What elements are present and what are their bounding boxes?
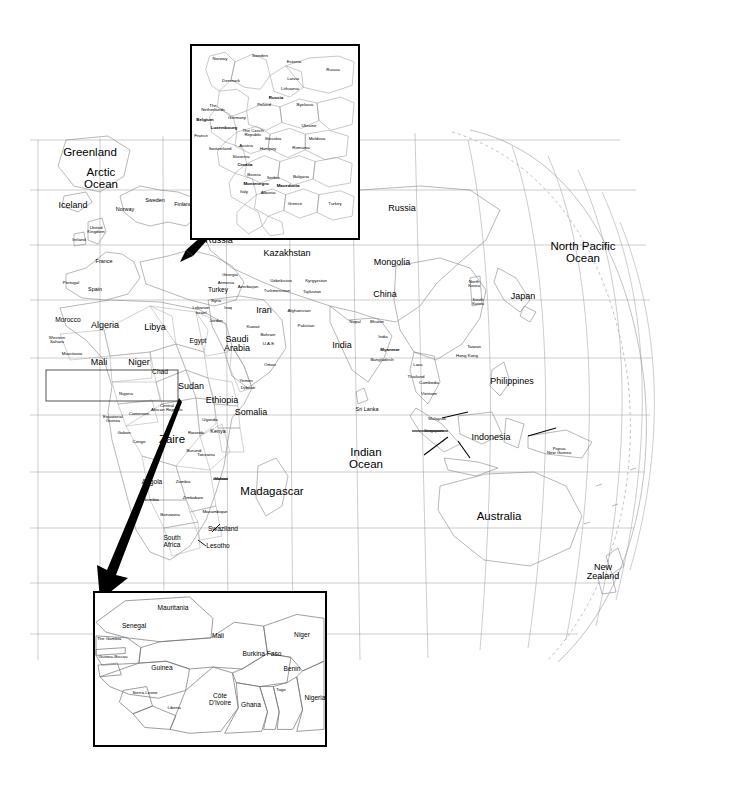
europe-label-austria: Austria [239,144,253,148]
europe-label-macedonia: Macedonia [277,184,300,188]
europe-label-norway: Norway [213,57,228,61]
europe-label-russia: Russia [269,96,283,100]
europe-label-albania: Albania [261,191,276,195]
west-africa-inset-labels: MauritaniaSenegalThe GambiaGuinea-Bissau… [95,593,325,745]
west-africa-inset-box[interactable]: MauritaniaSenegalThe GambiaGuinea-Bissau… [93,591,327,747]
westafrica-label-guinea-bissau: Guinea-Bissau [99,655,128,659]
westafrica-label-sierra-leone: Sierra Leone [132,691,157,695]
europe-label-italy: Italy [240,190,248,194]
europe-inset-labels: NorwaySwedenEstoniaRussiaDenmarkLatviaLi… [192,46,358,238]
europe-label-poland: Poland [257,103,271,107]
europe-label-slovakia: Slovakia [265,137,282,141]
europe-label-denmark: Denmark [222,79,240,83]
europe-label-bosnia: Bosnia [247,173,260,177]
westafrica-label-burkina-faso: Burkina Faso [243,651,282,658]
europe-label-latvia: Latvia [287,77,299,81]
westafrica-label-liberia: Liberia [167,706,180,710]
europe-label-bulgaria: Bulgaria [293,175,309,179]
europe-label-ukraine: Ukraine [301,124,316,128]
europe-label-serbia: Serbia [267,176,280,180]
europe-label-switzerland: Switzerland [209,147,232,151]
europe-label-greece: Greece [288,202,302,206]
westafrica-label-senegal: Senegal [122,623,146,630]
europe-label-russia: Russia [326,68,339,72]
westafrica-label-niger: Niger [294,632,310,639]
europe-label-hungary: Hungary [260,147,277,151]
westafrica-label-guinea: Guinea [151,665,172,672]
europe-label-montenegro: Montenegro [243,182,268,186]
westafrica-label-mali: Mali [212,633,224,640]
europe-label-the-netherlands: The Netherlands [201,104,225,113]
europe-label-the-czech-republic: The Czech Republic [242,129,263,138]
europe-label-luxembourg: Luxembourg [211,126,238,130]
globe-limb [452,130,646,662]
europe-inset-box[interactable]: NorwaySwedenEstoniaRussiaDenmarkLatviaLi… [190,44,360,240]
europe-label-byelarus: Byelarus [296,103,313,107]
westafrica-label-mauritania: Mauritania [158,605,189,612]
west-africa-inset-arrow [97,398,182,600]
europe-label-lithuania: Lithuania [281,87,299,91]
europe-label-france: France [194,134,208,138]
europe-label-moldova: Moldova [309,137,326,141]
westafrica-label-c-te-d-ivoire: Côte D'Ivoire [209,693,231,706]
map-figure: GreenlandIcelandNorwaySwedenFinlandUnite… [0,0,736,798]
europe-label-germany: Germany [228,116,246,120]
westafrica-label-benin: Benin [284,666,301,673]
europe-label-romania: Romania [292,146,310,150]
europe-label-croatia: Croatia [237,163,252,167]
europe-label-slovenia: Slovenia [233,155,250,159]
europe-label-belgium: Belgium [196,118,213,122]
westafrica-label-ghana: Ghana [241,702,261,709]
westafrica-label-the-gambia: The Gambia [97,637,121,641]
westafrica-label-togo: Togo [276,688,286,692]
europe-label-sweden: Sweden [252,54,268,58]
westafrica-label-nigeria: Nigeria [305,695,326,702]
europe-label-turkey: Turkey [328,202,341,206]
europe-label-estonia: Estonia [287,60,302,64]
